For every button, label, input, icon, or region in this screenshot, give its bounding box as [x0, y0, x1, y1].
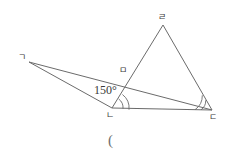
angle-label-150: 150°	[94, 84, 117, 96]
geometry-figure: ㄱ ㄴ ㄷ ㄹ ㅁ 150° (	[0, 0, 251, 162]
geometry-canvas	[0, 0, 251, 162]
angle-arc-n-inner	[119, 99, 123, 109]
vertex-label-d: ㄷ	[209, 113, 217, 122]
vertex-label-n: ㄴ	[106, 111, 114, 120]
vertex-label-m: ㅁ	[119, 66, 127, 75]
stray-paren-mark: (	[108, 133, 113, 148]
vertex-label-r: ㄹ	[158, 13, 166, 22]
vertex-label-g: ㄱ	[18, 53, 26, 62]
segment-r-d	[163, 25, 212, 110]
